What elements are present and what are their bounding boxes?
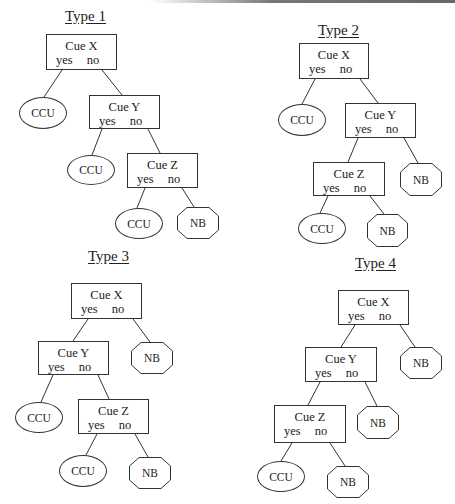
leaf-nb-octagon: NB — [400, 163, 442, 196]
leaf-label: NB — [413, 357, 429, 369]
no-branch-label: no — [315, 424, 328, 438]
yes-branch-label: yes — [323, 181, 340, 195]
leaf-label: NB — [340, 476, 356, 488]
leaf-ccu-ellipse: CCU — [19, 97, 67, 129]
yes-branch-label: yes — [48, 360, 65, 374]
yes-branch-label: yes — [56, 53, 73, 67]
yes-branch-label: yes — [99, 114, 116, 128]
yes-branch-label: yes — [348, 309, 365, 323]
leaf-ccu-ellipse: CCU — [59, 455, 107, 487]
leaf-ccu-ellipse: CCU — [67, 155, 115, 185]
no-branch-label: no — [340, 62, 353, 76]
leaf-nb-octagon: NB — [129, 457, 171, 489]
cue-label: Cue X — [47, 39, 116, 53]
tree-title-type-4: Type 4 — [355, 255, 396, 272]
no-branch-label: no — [130, 114, 143, 128]
leaf-label: NB — [142, 467, 158, 479]
no-branch-label: no — [119, 418, 132, 432]
cue-label: Cue X — [300, 48, 368, 62]
decision-node-cue-y: Cue Y yesno — [305, 347, 377, 382]
yes-branch-label: yes — [284, 424, 301, 438]
decision-node-cue-x: Cue X yesno — [71, 283, 142, 319]
leaf-ccu-ellipse: CCU — [15, 402, 63, 433]
leaf-nb-octagon: NB — [131, 342, 173, 374]
leaf-ccu-ellipse: CCU — [278, 104, 326, 136]
leaf-nb-octagon: NB — [367, 214, 408, 247]
leaf-ccu-ellipse: CCU — [257, 461, 305, 492]
leaf-ccu-ellipse: CCU — [298, 213, 346, 244]
leaf-label: NB — [144, 352, 160, 364]
tree-title-type-3: Type 3 — [88, 248, 129, 265]
no-branch-label: no — [346, 366, 359, 380]
tree-title-type-1: Type 1 — [65, 8, 106, 25]
no-branch-label: no — [79, 360, 92, 374]
cue-label: Cue Y — [306, 352, 376, 366]
tree-title-type-2: Type 2 — [318, 22, 359, 39]
leaf-label: NB — [370, 417, 386, 429]
decision-node-cue-y: Cue Y yesno — [89, 95, 160, 129]
decision-node-cue-z: Cue Z yesno — [274, 405, 346, 443]
leaf-nb-octagon: NB — [400, 347, 442, 379]
cue-label: Cue Z — [79, 404, 148, 418]
no-branch-label: no — [354, 181, 367, 195]
leaf-nb-octagon: NB — [327, 466, 369, 498]
yes-branch-label: yes — [355, 122, 372, 136]
yes-branch-label: yes — [309, 62, 326, 76]
leaf-label: NB — [380, 225, 396, 237]
leaf-label: NB — [190, 217, 206, 229]
cue-label: Cue X — [72, 288, 141, 302]
cue-label: Cue X — [339, 295, 408, 309]
cue-label: Cue Y — [39, 346, 108, 360]
decision-node-cue-x: Cue X yesno — [299, 43, 369, 79]
cue-label: Cue Z — [128, 158, 197, 172]
leaf-label: NB — [413, 174, 429, 186]
leaf-ccu-ellipse: CCU — [115, 208, 163, 239]
leaf-nb-octagon: NB — [177, 207, 219, 239]
cue-label: Cue Z — [275, 410, 345, 424]
cue-label: Cue Y — [90, 100, 159, 114]
decision-node-cue-z: Cue Z yesno — [127, 153, 198, 188]
no-branch-label: no — [112, 302, 125, 316]
decision-node-cue-z: Cue Z yesno — [313, 162, 385, 196]
leaf-nb-octagon: NB — [357, 406, 399, 439]
decision-node-cue-z: Cue Z yesno — [78, 399, 149, 434]
decision-node-cue-y: Cue Y yesno — [345, 103, 416, 138]
yes-branch-label: yes — [315, 366, 332, 380]
cue-label: Cue Y — [346, 108, 415, 122]
cue-label: Cue Z — [314, 167, 384, 181]
yes-branch-label: yes — [81, 302, 98, 316]
decision-node-cue-x: Cue X yesno — [338, 290, 409, 325]
no-branch-label: no — [386, 122, 399, 136]
decision-node-cue-x: Cue X yesno — [46, 34, 117, 70]
no-branch-label: no — [87, 53, 100, 67]
yes-branch-label: yes — [137, 172, 154, 186]
no-branch-label: no — [379, 309, 392, 323]
yes-branch-label: yes — [88, 418, 105, 432]
decision-node-cue-y: Cue Y yesno — [38, 341, 109, 375]
no-branch-label: no — [168, 172, 181, 186]
